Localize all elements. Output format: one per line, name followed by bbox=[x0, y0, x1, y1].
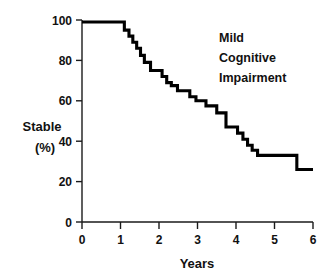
x-tick-label-6: 6 bbox=[310, 233, 317, 247]
series-annotation: Mild Cognitive Impairment bbox=[219, 31, 287, 85]
y-axis-title-line1: Stable bbox=[22, 119, 61, 134]
x-tick-label-4: 4 bbox=[233, 233, 240, 247]
x-axis-title: Years bbox=[180, 256, 215, 271]
x-tick-label-5: 5 bbox=[271, 233, 278, 247]
x-tick-marks bbox=[82, 222, 313, 229]
y-tick-label-60: 60 bbox=[59, 94, 73, 108]
y-tick-label-40: 40 bbox=[59, 135, 73, 149]
x-tick-labels: 0 1 2 3 4 5 6 bbox=[79, 233, 317, 247]
annotation-line-3: Impairment bbox=[219, 71, 287, 85]
x-tick-label-0: 0 bbox=[79, 233, 86, 247]
survival-step-curve bbox=[82, 22, 313, 169]
x-tick-label-1: 1 bbox=[117, 233, 124, 247]
y-tick-label-20: 20 bbox=[59, 175, 73, 189]
axes-group bbox=[82, 20, 313, 222]
x-tick-label-3: 3 bbox=[194, 233, 201, 247]
y-tick-label-100: 100 bbox=[52, 14, 72, 28]
chart-svg: 100 80 60 40 20 0 0 1 2 3 4 5 6 bbox=[0, 0, 323, 280]
survival-curve-figure: 100 80 60 40 20 0 0 1 2 3 4 5 6 bbox=[0, 0, 323, 280]
y-tick-marks bbox=[76, 20, 82, 222]
annotation-line-1: Mild bbox=[219, 31, 244, 45]
annotation-line-2: Cognitive bbox=[219, 51, 276, 65]
y-axis-title-line2: (%) bbox=[35, 140, 55, 155]
y-tick-label-0: 0 bbox=[65, 216, 72, 230]
x-tick-label-2: 2 bbox=[156, 233, 163, 247]
y-tick-label-80: 80 bbox=[59, 54, 73, 68]
